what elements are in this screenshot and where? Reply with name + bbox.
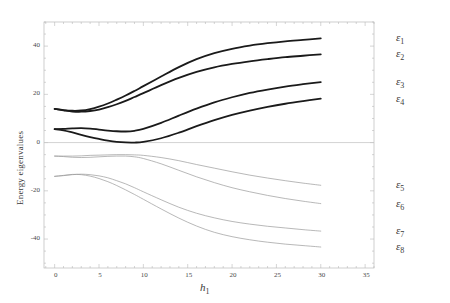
x-axis-title: h1 bbox=[200, 281, 210, 296]
legend-label-7: ε7 bbox=[396, 224, 404, 239]
legend-label-3: ε3 bbox=[396, 75, 404, 90]
y-axis-title: Energy eigenvalues bbox=[15, 131, 25, 205]
x-tick-label-7: 35 bbox=[360, 271, 372, 279]
y-tick-label-0: 40 bbox=[24, 41, 40, 49]
legend-label-1: ε1 bbox=[396, 31, 404, 46]
plot-frame bbox=[44, 22, 374, 268]
energy-eigenvalue-plot bbox=[0, 0, 450, 303]
legend-label-5: ε5 bbox=[396, 178, 404, 193]
legend-label-2: ε2 bbox=[396, 47, 404, 62]
x-tick-label-1: 5 bbox=[94, 271, 106, 279]
legend-label-6: ε6 bbox=[396, 197, 404, 212]
y-tick-label-4: -40 bbox=[24, 234, 40, 242]
x-tick-label-4: 20 bbox=[227, 271, 239, 279]
y-tick-label-3: -20 bbox=[24, 186, 40, 194]
series-curve-3 bbox=[55, 82, 321, 131]
legend-label-4: ε4 bbox=[396, 92, 404, 107]
x-tick-label-2: 10 bbox=[138, 271, 150, 279]
y-tick-label-2: 0 bbox=[24, 138, 40, 146]
axis-ticks bbox=[44, 22, 374, 268]
x-tick-label-6: 30 bbox=[316, 271, 328, 279]
y-tick-label-1: 20 bbox=[24, 89, 40, 97]
x-tick-label-5: 25 bbox=[271, 271, 283, 279]
chart-figure: 0510152025303540200-20-40h1Energy eigenv… bbox=[0, 0, 450, 303]
x-tick-label-0: 0 bbox=[50, 271, 62, 279]
series-curve-4 bbox=[55, 99, 321, 143]
legend-label-8: ε8 bbox=[396, 240, 404, 255]
series-curve-5 bbox=[55, 155, 321, 186]
x-tick-label-3: 15 bbox=[183, 271, 195, 279]
